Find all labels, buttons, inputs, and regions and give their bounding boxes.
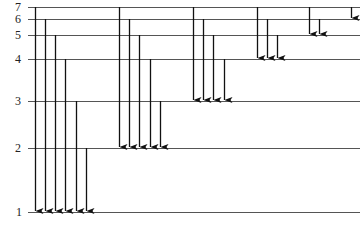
energy-level-diagram xyxy=(0,0,360,226)
transition-arrows xyxy=(36,7,352,211)
